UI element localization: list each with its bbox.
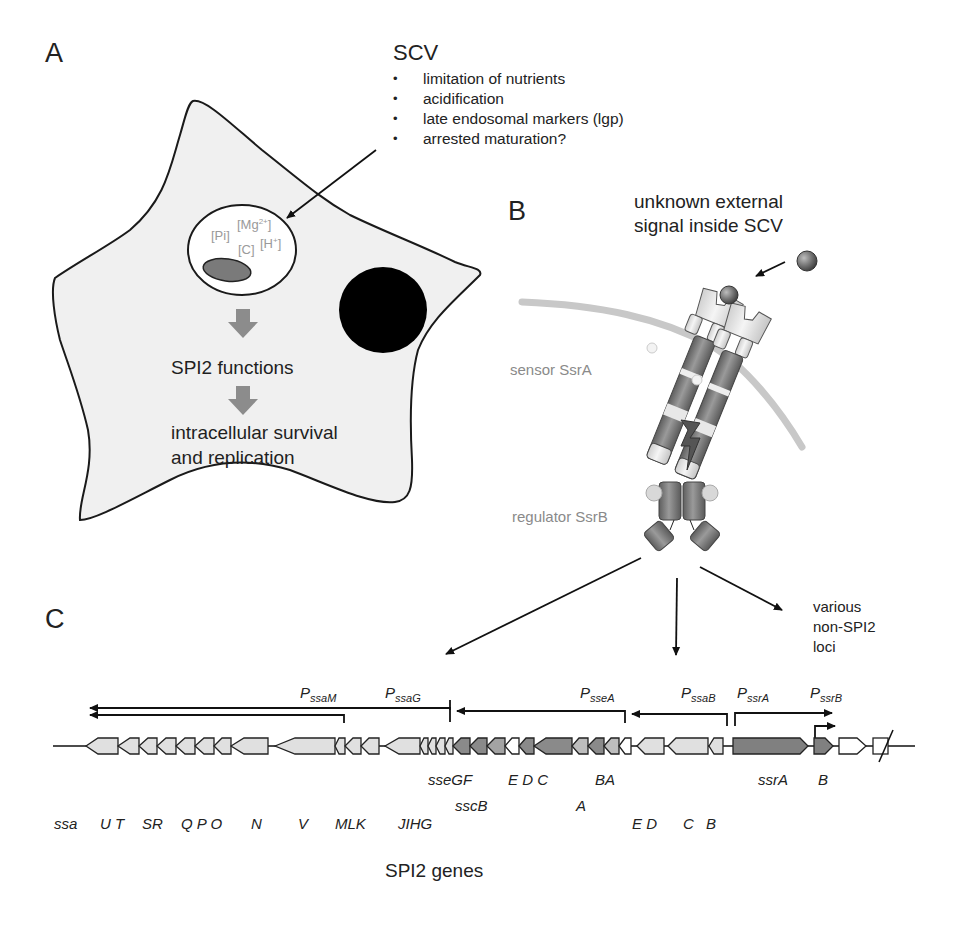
survival-label-line1: intracellular survival	[171, 421, 338, 445]
ion-pi: [Pi]	[211, 228, 230, 243]
scv-condition-item: late endosomal markers (lgp)	[390, 109, 624, 129]
arrow-to-non-spi2-loci	[700, 567, 782, 610]
gene-label-ssa-mlk: MLK	[335, 815, 366, 832]
gene-label-ssa-v: V	[298, 815, 308, 832]
ion-mg: [Mg2+]	[237, 217, 271, 232]
ion-c: [C]	[238, 242, 255, 257]
gene-label-sse-ba: BA	[595, 771, 615, 788]
scv-condition-item: arrested maturation?	[390, 129, 624, 149]
nucleus	[339, 267, 427, 353]
promoter-pssea: PsseA	[580, 684, 614, 704]
gene-label-ssra: ssrA	[758, 771, 788, 788]
promoter-pssam: PssaM	[300, 684, 336, 704]
gene-label-ssegf: sseGF	[428, 771, 472, 788]
gene-label-ssa-ut: U T	[100, 815, 124, 832]
spi2-genes-caption: SPI2 genes	[385, 860, 483, 882]
gene-label-ssa-ed: E D	[632, 815, 657, 832]
panel-label-c: C	[45, 604, 65, 635]
sensor-ssra-label: sensor SsrA	[510, 361, 592, 378]
gene-label-ssa-n: N	[251, 815, 262, 832]
gene-label-ssca: A	[576, 797, 586, 814]
signal-label-line2: signal inside SCV	[634, 214, 783, 237]
gene-label-ssa-sr: SR	[142, 815, 163, 832]
gene-label-ssa-c: C	[683, 815, 694, 832]
promoter-pssra: PssrA	[737, 684, 769, 704]
regulator-ssrb-icon	[643, 482, 721, 552]
non-spi2-loci-label: various non-SPI2 loci	[813, 597, 876, 657]
panel-label-b: B	[508, 196, 526, 227]
scv-conditions-list: limitation of nutrients acidification la…	[390, 69, 624, 149]
scv-condition-item: acidification	[390, 89, 624, 109]
ion-h: [H+]	[260, 236, 281, 251]
scv-title: SCV	[393, 40, 438, 66]
gene-label-ssa-b: B	[706, 815, 716, 832]
promoter-pssab: PssaB	[681, 684, 715, 704]
scv-condition-item: limitation of nutrients	[390, 69, 624, 89]
signal-label-line1: unknown external	[634, 190, 783, 213]
gene-label-ssrb: B	[818, 771, 828, 788]
gene-map	[86, 730, 893, 762]
sensor-ssra-icon	[635, 286, 772, 484]
arrow-to-pssag	[446, 558, 641, 654]
gene-label-ssa-qpo: Q P O	[181, 815, 222, 832]
signal-molecule-icon	[797, 251, 817, 271]
signal-arrow	[756, 262, 785, 276]
regulator-ssrb-label: regulator SsrB	[512, 508, 608, 525]
arrow-to-pssab	[676, 578, 677, 655]
gene-label-ssa: ssa	[54, 815, 77, 832]
transcript-arrows	[90, 700, 835, 741]
gene-label-ssa-jihg: JIHG	[398, 815, 432, 832]
survival-label-line2: and replication	[171, 446, 295, 470]
promoter-pssrb: PssrB	[810, 684, 842, 704]
panel-label-a: A	[45, 38, 63, 69]
spi2-functions-label: SPI2 functions	[171, 356, 294, 380]
gene-label-sscb: sscB	[455, 797, 488, 814]
gene-label-sse-edc: E D C	[508, 771, 548, 788]
promoter-pssag: PssaG	[385, 684, 421, 704]
